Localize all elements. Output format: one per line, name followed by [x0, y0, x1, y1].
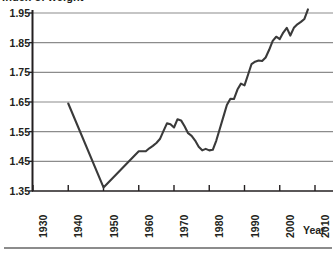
plot-area: 1.351.451.551.651.751.851.95 [0, 0, 336, 200]
x-axis-title: Year [303, 224, 325, 236]
y-tick-label: 1.35 [4, 186, 30, 197]
line-chart-svg [0, 0, 336, 200]
x-axis-ticks [33, 185, 315, 191]
y-tick-label: 1.85 [4, 38, 30, 49]
y-tick-label: 1.75 [4, 67, 30, 78]
x-tick-label: 1980 [214, 215, 225, 238]
x-tick-label: 1940 [73, 215, 84, 238]
y-tick-label: 1.65 [4, 97, 30, 108]
footer-divider [4, 247, 332, 249]
x-tick-label: 1930 [38, 215, 49, 238]
x-tick-label: 1950 [109, 215, 120, 238]
y-axis-labels: 1.351.451.551.651.751.851.95 [0, 0, 30, 200]
chart-page: Index of weight 1.351.451.551.651.751.85… [0, 0, 336, 256]
x-tick-label: 1960 [144, 215, 155, 238]
x-axis-labels: 193019401950196019701980199020002010 [0, 196, 336, 244]
x-tick-label: 1970 [179, 215, 190, 238]
gridlines [29, 13, 333, 191]
y-tick-label: 1.95 [4, 8, 30, 19]
x-tick-label: 1990 [250, 215, 261, 238]
y-tick-label: 1.45 [4, 156, 30, 167]
x-tick-label: 2000 [285, 215, 296, 238]
y-tick-label: 1.55 [4, 127, 30, 138]
